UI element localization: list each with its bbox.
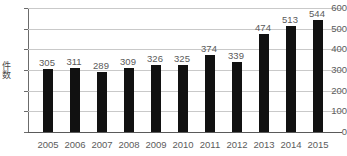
bar-2012 bbox=[232, 62, 242, 132]
bar-2011 bbox=[205, 55, 215, 132]
bar-value-2014: 513 bbox=[277, 15, 303, 25]
y-axis-title: 件数 bbox=[1, 62, 12, 80]
y-tick-label-100: 100 bbox=[323, 106, 347, 116]
bar-chart: 件数 0100200300400500600 30531128930932632… bbox=[0, 0, 347, 156]
y-tick-label-300: 300 bbox=[323, 65, 347, 75]
gridline-0 bbox=[28, 132, 342, 133]
y-tick-200 bbox=[24, 91, 28, 92]
bar-2010 bbox=[178, 65, 188, 132]
bar-2015 bbox=[313, 20, 323, 132]
x-tick-label-2013: 2013 bbox=[250, 140, 278, 150]
y-tick-label-200: 200 bbox=[323, 86, 347, 96]
y-tick-600 bbox=[24, 8, 28, 9]
y-tick-label-400: 400 bbox=[323, 44, 347, 54]
x-tick-label-2009: 2009 bbox=[142, 140, 170, 150]
x-tick-label-2008: 2008 bbox=[115, 140, 143, 150]
plot-area bbox=[28, 8, 342, 132]
y-tick-0 bbox=[24, 132, 28, 133]
x-tick-label-2014: 2014 bbox=[277, 140, 305, 150]
y-tick-500 bbox=[24, 29, 28, 30]
bar-value-2009: 326 bbox=[142, 54, 168, 64]
y-tick-label-500: 500 bbox=[323, 24, 347, 34]
bar-value-2007: 289 bbox=[88, 61, 114, 71]
gridline-600 bbox=[28, 8, 342, 9]
x-tick-label-2007: 2007 bbox=[88, 140, 116, 150]
bar-2008 bbox=[124, 68, 134, 132]
bar-value-2011: 374 bbox=[196, 44, 222, 54]
bar-2005 bbox=[43, 69, 53, 132]
y-tick-300 bbox=[24, 70, 28, 71]
x-tick-label-2006: 2006 bbox=[61, 140, 89, 150]
bar-2013 bbox=[259, 34, 269, 132]
bar-value-2005: 305 bbox=[34, 58, 60, 68]
y-tick-400 bbox=[24, 49, 28, 50]
bar-value-2015: 544 bbox=[304, 9, 330, 19]
x-tick-label-2012: 2012 bbox=[223, 140, 251, 150]
bar-2006 bbox=[70, 68, 80, 132]
bar-2014 bbox=[286, 26, 296, 132]
x-tick-label-2011: 2011 bbox=[196, 140, 224, 150]
bar-value-2012: 339 bbox=[223, 51, 249, 61]
bar-value-2008: 309 bbox=[115, 57, 141, 67]
x-tick-label-2010: 2010 bbox=[169, 140, 197, 150]
bar-2009 bbox=[151, 65, 161, 132]
x-tick-label-2015: 2015 bbox=[304, 140, 332, 150]
bar-2007 bbox=[97, 72, 107, 132]
y-tick-label-0: 0 bbox=[323, 127, 347, 137]
bar-value-2013: 474 bbox=[250, 23, 276, 33]
x-tick-label-2005: 2005 bbox=[34, 140, 62, 150]
bar-value-2010: 325 bbox=[169, 54, 195, 64]
bar-value-2006: 311 bbox=[61, 57, 87, 67]
y-tick-100 bbox=[24, 111, 28, 112]
